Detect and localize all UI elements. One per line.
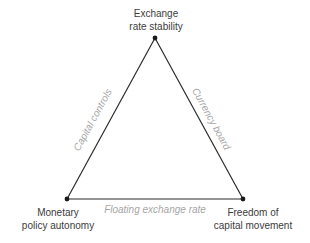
right-edge-line — [155, 38, 243, 199]
vertex-label-line: Freedom of — [227, 207, 278, 220]
vertex-label-exchange-rate-stability: Exchange rate stability — [129, 8, 182, 33]
edge-label-floating-exchange-rate: Floating exchange rate — [104, 205, 206, 215]
bottom-left-vertex-dot-icon — [65, 197, 70, 202]
bottom-right-vertex-dot-icon — [241, 197, 246, 202]
vertex-label-line: policy autonomy — [22, 219, 94, 232]
left-edge-line — [67, 38, 155, 199]
vertex-label-freedom-of-capital-movement: Freedom of capital movement — [214, 207, 292, 232]
trilemma-diagram: Exchange rate stability Monetary policy … — [0, 0, 310, 243]
vertex-label-line: rate stability — [129, 20, 182, 33]
vertex-label-line: capital movement — [214, 219, 292, 232]
top-vertex-dot-icon — [153, 36, 158, 41]
vertex-label-line: Monetary — [37, 207, 79, 220]
vertex-label-monetary-policy-autonomy: Monetary policy autonomy — [22, 207, 94, 232]
vertex-label-line: Exchange — [134, 8, 178, 21]
